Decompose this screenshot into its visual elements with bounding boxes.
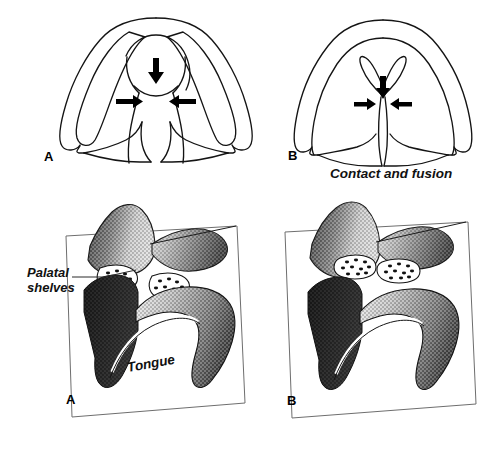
panel-letter-top-left: A <box>44 149 54 164</box>
contact-and-fusion-caption: Contact and fusion <box>330 166 452 181</box>
palatal-shelves-label-line2: shelves <box>27 280 75 295</box>
panel-letter-top-right: B <box>288 148 297 163</box>
panel-letter-bottom-left: A <box>66 392 76 407</box>
palatal-shelves-label-line1: Palatal <box>27 265 69 280</box>
panel-letter-bottom-right: B <box>287 393 296 408</box>
embryology-figure: A B Contact and fusion <box>0 0 493 454</box>
panel-bottom-left <box>66 205 245 417</box>
panel-bottom-right <box>285 202 476 418</box>
